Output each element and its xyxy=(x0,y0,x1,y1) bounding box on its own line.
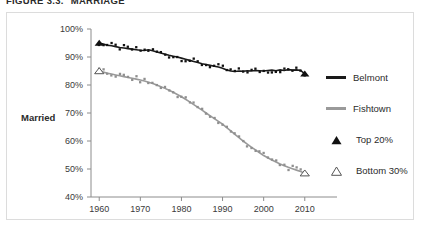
data-point xyxy=(114,44,116,46)
data-point xyxy=(279,71,281,73)
data-point xyxy=(168,56,170,58)
data-point xyxy=(233,132,235,134)
data-point xyxy=(147,50,149,52)
data-point xyxy=(156,50,158,52)
data-point xyxy=(127,76,129,78)
data-point xyxy=(287,68,289,70)
data-point xyxy=(259,71,261,73)
data-point xyxy=(213,65,215,67)
data-point xyxy=(250,69,252,71)
legend-line-icon-belmont xyxy=(325,76,347,79)
data-point xyxy=(271,71,273,73)
data-point xyxy=(176,96,178,98)
data-point xyxy=(196,106,198,108)
data-point xyxy=(151,82,153,84)
legend-item-belmont[interactable]: Belmont xyxy=(325,71,422,84)
figure-title-text: MARRIAGE xyxy=(71,0,125,4)
y-tick-label: 40% xyxy=(65,192,83,202)
data-point xyxy=(258,150,260,152)
legend-label-belmont: Belmont xyxy=(353,72,388,83)
data-point xyxy=(242,70,244,72)
data-point xyxy=(267,156,269,158)
data-point xyxy=(184,60,186,62)
data-point xyxy=(119,73,121,75)
data-point xyxy=(176,56,178,58)
data-point xyxy=(201,64,203,66)
series-line-belmont xyxy=(99,43,305,74)
y-tick-label: 60% xyxy=(65,136,83,146)
data-point xyxy=(123,74,125,76)
data-point xyxy=(250,147,252,149)
data-point xyxy=(242,140,244,142)
y-tick-label: 50% xyxy=(65,164,83,174)
data-point xyxy=(226,69,228,71)
triangle-hollow-icon xyxy=(325,166,347,176)
data-point xyxy=(201,108,203,110)
data-point xyxy=(143,49,145,51)
y-tick-label: 90% xyxy=(65,52,83,62)
data-point xyxy=(131,48,133,50)
x-tick-label: 1960 xyxy=(89,204,109,214)
data-point xyxy=(205,112,207,114)
data-point xyxy=(246,145,248,147)
triangle-filled-icon xyxy=(95,40,104,46)
legend-label-top20: Top 20% xyxy=(356,134,393,145)
data-point xyxy=(230,68,232,70)
data-point xyxy=(106,44,108,46)
data-point xyxy=(102,68,104,70)
data-point xyxy=(156,84,158,86)
data-point xyxy=(127,46,129,48)
figure-number: FIGURE 3.3. xyxy=(6,0,64,4)
data-point xyxy=(160,87,162,89)
chart-legend: Belmont Fishtown Top 20% Bottom 30% xyxy=(325,71,422,195)
data-point xyxy=(283,164,285,166)
x-tick-label: 1990 xyxy=(213,204,233,214)
data-point xyxy=(139,81,141,83)
data-point xyxy=(221,124,223,126)
legend-item-bottom30[interactable]: Bottom 30% xyxy=(325,164,422,177)
data-point xyxy=(189,60,191,62)
data-point xyxy=(119,48,121,50)
data-point xyxy=(193,57,195,59)
data-point xyxy=(135,46,137,48)
data-point xyxy=(164,54,166,56)
legend-item-top20[interactable]: Top 20% xyxy=(325,133,422,146)
data-point xyxy=(213,117,215,119)
data-point xyxy=(222,65,224,67)
data-point xyxy=(106,73,108,75)
data-point xyxy=(152,48,154,50)
data-point xyxy=(300,168,302,170)
data-point xyxy=(295,166,297,168)
data-point xyxy=(271,158,273,160)
data-point xyxy=(172,56,174,58)
data-point xyxy=(209,116,211,118)
data-point xyxy=(123,44,125,46)
x-tick-label: 1980 xyxy=(171,204,191,214)
data-point xyxy=(110,74,112,76)
data-point xyxy=(283,67,285,69)
data-point xyxy=(226,126,228,128)
data-point xyxy=(197,60,199,62)
data-point xyxy=(217,63,219,65)
data-point xyxy=(238,67,240,69)
y-tick-label: 70% xyxy=(65,108,83,118)
triangle-hollow-icon xyxy=(300,170,309,176)
data-point xyxy=(135,75,137,77)
chart-panel: Married 40%50%60%70%80%90%100% 196019701… xyxy=(6,12,414,220)
data-point xyxy=(262,152,264,154)
data-point xyxy=(131,79,133,81)
data-point xyxy=(172,91,174,93)
data-point xyxy=(295,67,297,69)
legend-line-icon-fishtown xyxy=(325,107,347,110)
data-point xyxy=(263,70,265,72)
data-point xyxy=(292,165,294,167)
data-point xyxy=(275,159,277,161)
x-tick-label: 2000 xyxy=(254,204,274,214)
legend-item-fishtown[interactable]: Fishtown xyxy=(325,102,422,115)
data-point xyxy=(209,66,211,68)
y-tick-label: 100% xyxy=(60,24,83,34)
x-tick-label: 2010 xyxy=(295,204,315,214)
data-point xyxy=(160,51,162,53)
data-point xyxy=(291,70,293,72)
data-point xyxy=(185,96,187,98)
